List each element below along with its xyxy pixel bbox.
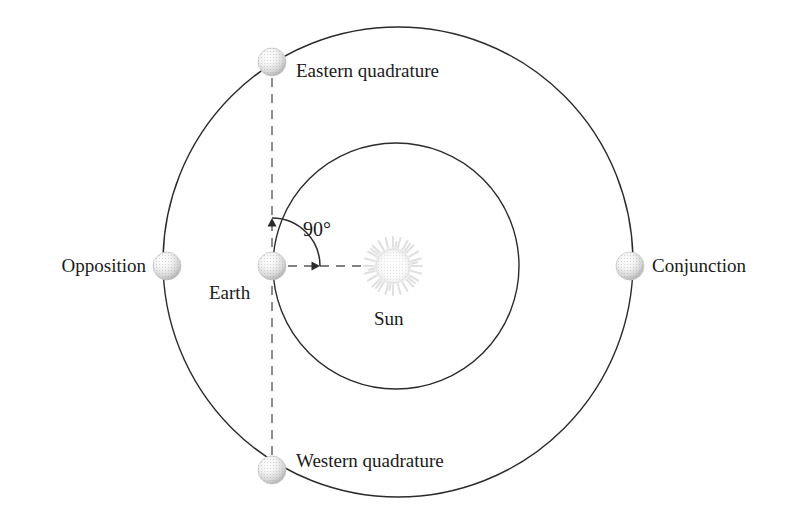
planet-marker-conjunction bbox=[616, 252, 644, 280]
orbital-configuration-diagram: Eastern quadrature Opposition Conjunctio… bbox=[0, 0, 795, 524]
planet-marker-opposition bbox=[153, 252, 181, 280]
earth-body bbox=[258, 252, 286, 280]
label-western-quadrature: Western quadrature bbox=[296, 451, 444, 470]
planet-marker-western-quadrature bbox=[258, 456, 286, 484]
earth-sphere-texture bbox=[258, 252, 286, 280]
label-conjunction: Conjunction bbox=[652, 256, 746, 275]
sun-disc-texture bbox=[376, 249, 410, 283]
planet-marker-eastern-quadrature bbox=[258, 48, 286, 76]
label-earth: Earth bbox=[209, 283, 250, 302]
label-eastern-quadrature: Eastern quadrature bbox=[296, 61, 439, 80]
label-opposition: Opposition bbox=[62, 256, 146, 275]
label-sun: Sun bbox=[374, 309, 404, 328]
sun-body bbox=[364, 237, 422, 295]
label-right-angle: 90° bbox=[303, 219, 331, 239]
